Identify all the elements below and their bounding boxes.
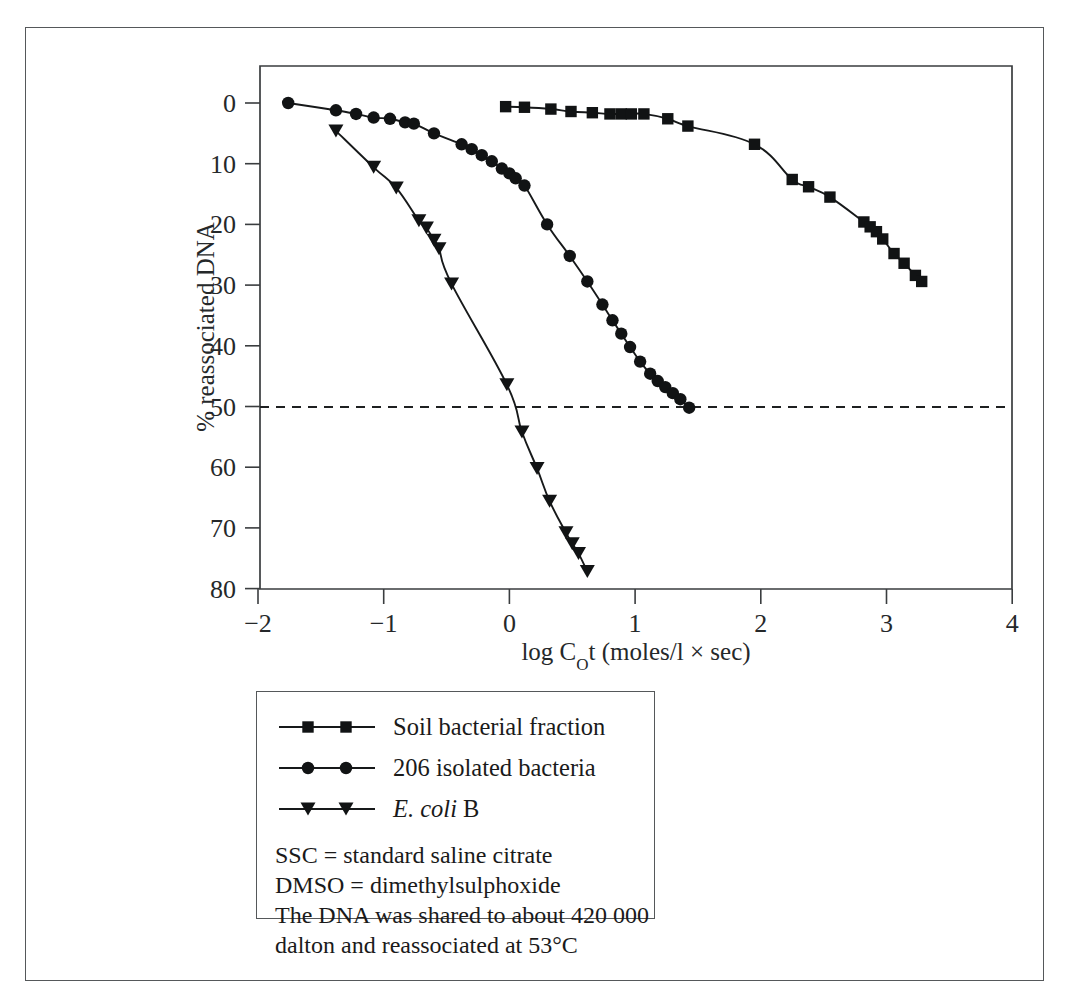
- data-point-s2-4: [419, 222, 434, 235]
- data-point-s0-19: [888, 248, 899, 259]
- data-point-s0-7: [626, 108, 637, 119]
- legend-note-line-2: The DNA was shared to about 420 000: [275, 900, 645, 930]
- data-point-s2-15: [580, 565, 595, 578]
- plot-frame: [260, 66, 1012, 589]
- data-point-s0-11: [749, 139, 760, 150]
- data-point-s0-12: [787, 174, 798, 185]
- data-point-s1-2: [350, 108, 362, 120]
- x-tick-label-4: 4: [1006, 609, 1019, 638]
- data-point-s1-22: [624, 341, 636, 353]
- data-point-s0-13: [803, 181, 814, 192]
- x-tick-label-2: 2: [754, 609, 767, 638]
- legend-entry-1[interactable]: 206 isolated bacteria: [257, 747, 654, 788]
- data-point-s0-4: [587, 107, 598, 118]
- data-point-s1-1: [330, 104, 342, 116]
- data-point-s0-6: [616, 108, 627, 119]
- data-point-s1-19: [596, 298, 608, 310]
- x-tick-label-0: 0: [503, 609, 516, 638]
- data-point-s0-10: [682, 120, 693, 131]
- data-point-s2-11: [542, 495, 557, 508]
- data-point-s0-18: [877, 233, 888, 244]
- data-point-s1-6: [408, 117, 420, 129]
- legend-entry-list: Soil bacterial fraction206 isolated bact…: [257, 706, 654, 829]
- legend-note-line-0: SSC = standard saline citrate: [275, 840, 645, 870]
- data-point-s1-15: [518, 179, 530, 191]
- data-point-s0-22: [916, 276, 927, 287]
- legend-entry-2[interactable]: E. coli B: [257, 788, 654, 829]
- x-axis-tick-labels: −2−101234: [244, 609, 1019, 638]
- data-point-s2-6: [432, 242, 447, 255]
- data-point-s0-8: [638, 108, 649, 119]
- data-point-s0-0: [500, 101, 511, 112]
- legend-note-line-1: DMSO = dimethylsulphoxide: [275, 870, 645, 900]
- data-point-s2-7: [444, 277, 459, 290]
- data-point-s2-2: [389, 181, 404, 194]
- legend-marker-circle-icon: [275, 754, 379, 782]
- legend-entry-0[interactable]: Soil bacterial fraction: [257, 706, 654, 747]
- series-line-1: [288, 103, 689, 408]
- data-point-s0-3: [565, 106, 576, 117]
- legend-notes: SSC = standard saline citrateDMSO = dime…: [275, 840, 645, 960]
- x-tick-label-−1: −1: [370, 609, 398, 638]
- data-point-s0-2: [545, 103, 556, 114]
- data-point-s1-4: [384, 113, 396, 125]
- data-point-s1-18: [581, 275, 593, 287]
- data-point-s1-17: [564, 250, 576, 262]
- series-markers: [282, 97, 927, 578]
- data-point-s1-7: [428, 127, 440, 139]
- legend-glyph-b-0: [340, 721, 351, 732]
- data-point-s0-1: [519, 102, 530, 113]
- y-tick-label-10: 10: [210, 150, 236, 179]
- y-tick-label-80: 80: [210, 575, 236, 604]
- legend-note-line-3: dalton and reassociated at 53°C: [275, 930, 645, 960]
- x-tick-label-−2: −2: [244, 609, 272, 638]
- x-axis-title: log COt (moles/l × sec): [521, 638, 750, 674]
- y-axis-title: % reassociated DNA: [192, 222, 219, 432]
- legend-label-0: Soil bacterial fraction: [379, 713, 605, 741]
- figure-root: 01020304050607080 −2−101234 % reassociat…: [0, 0, 1072, 1006]
- data-point-s2-14: [571, 547, 586, 560]
- data-point-s1-21: [615, 327, 627, 339]
- x-tick-label-1: 1: [629, 609, 642, 638]
- data-point-s1-0: [282, 97, 294, 109]
- legend-glyph-b-1: [340, 761, 352, 773]
- x-axis-ticks: [258, 589, 1012, 604]
- data-point-s1-20: [606, 314, 618, 326]
- data-point-s0-9: [662, 113, 673, 124]
- data-point-s1-23: [634, 355, 646, 367]
- y-axis-ticks: [245, 103, 260, 589]
- series-curves: [288, 103, 922, 572]
- data-point-s0-20: [898, 258, 909, 269]
- data-point-s0-14: [824, 191, 835, 202]
- legend-box: Soil bacterial fraction206 isolated bact…: [256, 691, 655, 919]
- data-point-s2-9: [514, 425, 529, 438]
- legend-glyph-a-1: [302, 761, 314, 773]
- legend-label-1: 206 isolated bacteria: [379, 754, 596, 782]
- legend-label-2: E. coli B: [379, 795, 479, 823]
- data-point-s0-5: [604, 108, 615, 119]
- data-point-s1-16: [541, 218, 553, 230]
- y-tick-label-60: 60: [210, 453, 236, 482]
- y-tick-label-0: 0: [223, 89, 236, 118]
- data-point-s1-3: [367, 111, 379, 123]
- legend-marker-triangle-down-icon: [275, 795, 379, 823]
- y-tick-label-70: 70: [210, 514, 236, 543]
- legend-marker-square-icon: [275, 713, 379, 741]
- plot-frame-border: [260, 66, 1012, 589]
- data-point-s1-11: [486, 155, 498, 167]
- x-tick-label-3: 3: [880, 609, 893, 638]
- legend-glyph-a-0: [302, 721, 313, 732]
- data-point-s1-29: [683, 402, 695, 414]
- data-point-s2-8: [499, 378, 514, 391]
- data-point-s2-10: [530, 462, 545, 475]
